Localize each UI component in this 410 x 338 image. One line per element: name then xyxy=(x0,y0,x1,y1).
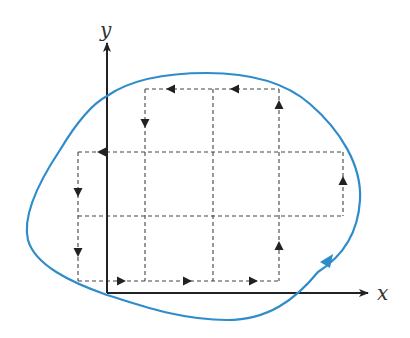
arrow-left-icon xyxy=(230,85,239,94)
arrow-left-icon xyxy=(166,85,175,94)
arrow-up-icon xyxy=(339,176,348,185)
closed-curve xyxy=(27,73,360,320)
arrow-down-icon xyxy=(141,119,150,128)
dashed-grid xyxy=(78,89,343,281)
arrow-down-icon xyxy=(74,248,83,257)
axes xyxy=(107,43,368,293)
diagram-canvas: y x xyxy=(0,0,410,338)
y-axis-label: y xyxy=(100,20,111,40)
arrow-left-icon xyxy=(97,148,106,157)
arrow-up-icon xyxy=(275,100,284,109)
circulation-arrows xyxy=(74,85,348,286)
arrow-right-icon xyxy=(249,277,258,286)
arrow-down-icon xyxy=(74,188,83,197)
curve-direction-arrow-icon xyxy=(320,254,333,268)
arrow-up-icon xyxy=(275,241,284,250)
x-axis-label: x xyxy=(377,283,388,303)
arrow-right-icon xyxy=(117,277,126,286)
arrow-right-icon xyxy=(183,277,192,286)
diagram-svg xyxy=(0,0,410,338)
